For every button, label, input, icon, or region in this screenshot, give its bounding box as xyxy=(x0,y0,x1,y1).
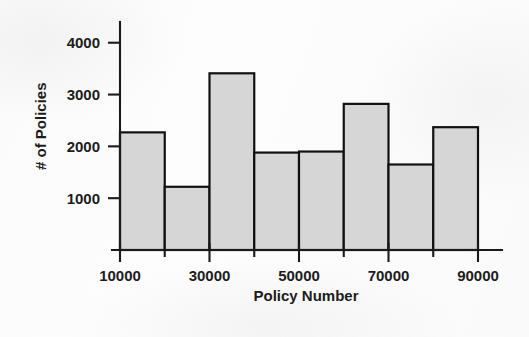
x-axis-tick-label: 30000 xyxy=(189,267,231,284)
histogram-bar xyxy=(344,104,389,250)
x-axis-tick-label: 90000 xyxy=(457,267,499,284)
histogram-bar xyxy=(389,165,434,251)
y-axis-tick-label: 4000 xyxy=(67,34,100,51)
x-axis-tick-label: 70000 xyxy=(368,267,410,284)
histogram-bar xyxy=(210,73,255,250)
y-axis-title: # of Policies xyxy=(32,82,49,170)
histogram-bar xyxy=(120,132,165,250)
histogram-bar xyxy=(254,153,299,250)
y-axis-tick-label: 1000 xyxy=(67,190,100,207)
y-axis-ticks: 1000200030004000 xyxy=(67,34,120,206)
histogram-bar xyxy=(299,152,344,250)
y-axis-tick-label: 3000 xyxy=(67,86,100,103)
y-axis-tick-label: 2000 xyxy=(67,138,100,155)
histogram-bar xyxy=(433,127,478,250)
x-axis-tick-labels: 1000030000500007000090000 xyxy=(99,267,499,284)
x-axis-tick-label: 10000 xyxy=(99,267,141,284)
bars-group xyxy=(120,73,478,250)
x-axis-tick-label: 50000 xyxy=(278,267,320,284)
histogram-bar xyxy=(165,187,210,250)
histogram-chart: 1000200030004000 10000300005000070000900… xyxy=(0,0,529,337)
x-axis-title: Policy Number xyxy=(253,287,358,304)
